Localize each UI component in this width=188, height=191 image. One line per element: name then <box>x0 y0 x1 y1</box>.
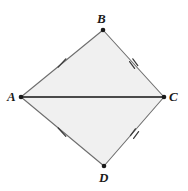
vertex-dot-a <box>19 95 24 100</box>
geometry-figure: A B C D <box>0 0 188 191</box>
vertex-label-c: C <box>169 90 178 103</box>
vertex-label-a: A <box>7 90 16 103</box>
vertex-dot-d <box>102 164 107 169</box>
quadrilateral-abcd <box>21 30 164 166</box>
vertex-label-b: B <box>97 12 106 25</box>
vertex-label-d: D <box>99 171 108 184</box>
kite-diagram-svg <box>0 0 188 191</box>
vertex-dot-b <box>101 28 106 33</box>
vertex-dot-c <box>162 95 167 100</box>
